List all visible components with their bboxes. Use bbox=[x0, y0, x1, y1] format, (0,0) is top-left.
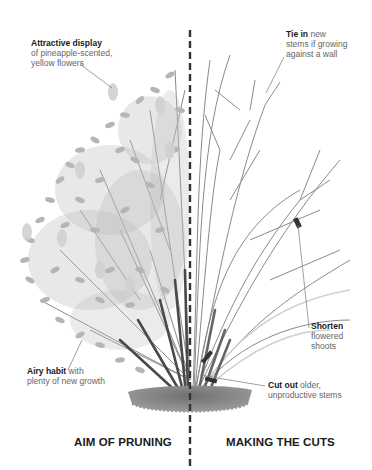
caption-making-the-cuts: MAKING THE CUTS bbox=[226, 436, 335, 448]
annotation-text: plenty of new growth bbox=[27, 376, 105, 386]
caption-aim-of-pruning: AIM OF PRUNING bbox=[74, 436, 172, 448]
annotation-attractive-display: Attractive display of pineapple-scented,… bbox=[31, 38, 112, 68]
annotation-tie-in: Tie in new stems if growing against a wa… bbox=[286, 29, 347, 59]
annotation-text: older, bbox=[298, 380, 321, 390]
annotation-text: of pineapple-scented, bbox=[31, 48, 112, 58]
annotation-text: with bbox=[66, 366, 83, 376]
annotation-text: stems if growing bbox=[286, 39, 347, 49]
annotation-airy-habit: Airy habit with plenty of new growth bbox=[27, 366, 105, 386]
annotation-bold: Attractive display bbox=[31, 38, 102, 48]
annotation-text: new bbox=[308, 29, 326, 39]
annotation-cut-out: Cut out older, unproductive stems bbox=[268, 380, 342, 400]
annotation-text: flowered bbox=[311, 331, 343, 341]
annotation-text: yellow flowers bbox=[31, 58, 84, 68]
annotation-bold: Airy habit bbox=[27, 366, 66, 376]
annotation-bold: Cut out bbox=[268, 380, 298, 390]
annotation-text: unproductive stems bbox=[268, 390, 342, 400]
annotation-text: against a wall bbox=[286, 49, 338, 59]
annotation-bold: Shorten bbox=[311, 321, 343, 331]
annotation-bold: Tie in bbox=[286, 29, 308, 39]
annotation-shorten: Shorten flowered shoots bbox=[311, 321, 343, 351]
annotation-text: shoots bbox=[311, 341, 336, 351]
foliage-canopy bbox=[19, 70, 190, 380]
